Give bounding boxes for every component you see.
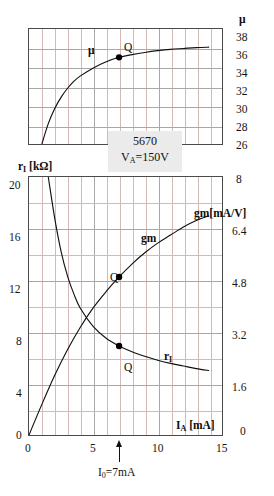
gm-curve-label: gm: [141, 232, 156, 244]
gm-curve: [29, 216, 209, 435]
io-value: =7mA: [106, 466, 136, 478]
mu-tick-26: 26: [236, 140, 248, 152]
mu-q-label: Q: [124, 41, 132, 53]
device-name: 5670: [108, 133, 182, 149]
operating-point-arrow-icon: [116, 440, 123, 462]
device-annotation-box: 5670 VA=150V: [108, 131, 182, 172]
ri-q-marker: [116, 343, 122, 349]
ri-curve-subscript: I: [169, 355, 172, 364]
arrow-shaft: [119, 445, 120, 462]
ri-tick-20: 20: [9, 180, 21, 192]
mu-tick-32: 32: [236, 86, 248, 98]
ri-tick-8: 8: [16, 336, 22, 348]
ia-axis-title: IA [mA]: [176, 419, 215, 433]
gm-tick-0: 0: [240, 426, 246, 438]
device-condition-symbol: V: [121, 150, 130, 164]
ri-curve-label: rI: [164, 350, 172, 364]
gm-tick-3-2: 3.2: [232, 330, 246, 342]
ia-tick-5: 5: [90, 443, 96, 455]
gm-tick-4-8: 4.8: [232, 278, 246, 290]
chart-canvas: 38 36 34 32 30 28 26 μ μ Q 5670 VA=150V …: [0, 0, 274, 496]
gm-q-label: Q: [110, 271, 118, 283]
gm-tick-6-4: 6.4: [232, 226, 246, 238]
mu-tick-28: 28: [236, 122, 248, 134]
gm-axis-title: gm[mA/V]: [194, 207, 246, 219]
operating-point-caption: I0=7mA: [98, 466, 135, 480]
clipped-header-text: [0, 0, 274, 11]
gm-tick-8: 8: [236, 174, 242, 186]
device-condition-value: =150V: [136, 150, 169, 164]
ia-tick-15: 15: [216, 443, 228, 455]
ri-axis-title: rI [kΩ]: [18, 160, 52, 174]
mu-tick-36: 36: [236, 50, 248, 62]
ri-tick-4: 4: [16, 388, 22, 400]
ri-tick-0: 0: [16, 430, 22, 442]
mu-q-marker: [116, 54, 122, 60]
mu-tick-34: 34: [236, 68, 248, 80]
mu-tick-38: 38: [236, 32, 248, 44]
ia-axis-unit: [mA]: [186, 419, 214, 431]
mu-curve: [42, 47, 209, 144]
device-condition: VA=150V: [108, 149, 182, 169]
gm-tick-1-6: 1.6: [232, 382, 246, 394]
ri-q-label: Q: [124, 361, 132, 373]
ri-tick-16: 16: [9, 232, 21, 244]
ia-tick-10: 10: [152, 443, 164, 455]
mu-curve-label: μ: [88, 44, 95, 56]
mu-tick-30: 30: [236, 104, 248, 116]
ri-axis-unit: [kΩ]: [26, 160, 52, 172]
ri-tick-12: 12: [9, 284, 21, 296]
mu-axis-title: μ: [239, 13, 246, 25]
ia-tick-0: 0: [25, 443, 31, 455]
